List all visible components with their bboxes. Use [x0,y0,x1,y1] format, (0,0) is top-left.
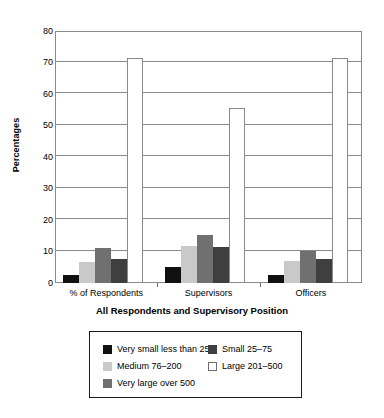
y-axis-tick-label: 50 [31,121,53,130]
gridline [56,187,361,188]
x-axis-tick [260,283,261,287]
legend-swatch-icon [103,379,112,388]
legend-item-label: Small 25–75 [222,344,272,354]
legend-swatch-icon [103,362,112,371]
legend-item-label: Very large over 500 [117,378,195,388]
y-axis-tick-label: 70 [31,58,53,67]
x-axis-tick [157,283,158,287]
legend-item[interactable]: Very small less than 25 [103,341,210,357]
legend-swatch-icon [103,345,112,354]
gridline [56,61,361,62]
x-axis-category-label: Officers [251,288,371,298]
gridline [56,218,361,219]
y-axis-tick-label: 80 [31,27,53,36]
y-axis-tick-label: 60 [31,90,53,99]
legend-column-right: Small 25–75Large 201–500 [208,341,283,375]
gridline [56,124,361,125]
bar-chart: Percentages 01020304050607080 % of Respo… [0,0,384,418]
y-axis-title: Percentages [11,95,21,195]
legend-item-label: Large 201–500 [222,361,283,371]
x-axis-title: All Respondents and Supervisory Position [0,305,384,316]
legend-item[interactable]: Large 201–500 [208,358,283,374]
gridline [56,92,361,93]
legend-item[interactable]: Medium 76–200 [103,358,210,374]
y-axis-tick-label: 20 [31,216,53,225]
y-axis-tick-label: 0 [31,279,53,288]
y-axis-tick-label: 40 [31,153,53,162]
legend-item[interactable]: Very large over 500 [103,375,210,391]
legend-swatch-icon [208,345,217,354]
legend: Very small less than 25Medium 76–200Very… [89,331,302,398]
y-axis-tick-label: 10 [31,247,53,256]
gridline [56,250,361,251]
legend-item-label: Medium 76–200 [117,361,182,371]
plot-area [55,31,362,283]
legend-swatch-icon [208,362,217,371]
legend-item[interactable]: Small 25–75 [208,341,283,357]
y-axis-tick-label: 30 [31,184,53,193]
legend-item-label: Very small less than 25 [117,344,210,354]
gridline [56,155,361,156]
legend-column-left: Very small less than 25Medium 76–200Very… [103,341,210,392]
